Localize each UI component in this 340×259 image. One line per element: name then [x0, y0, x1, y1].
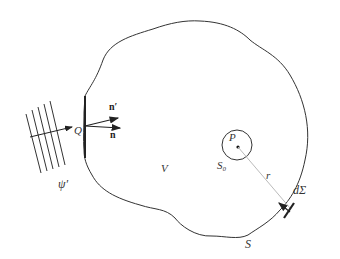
label-v: V [161, 163, 168, 174]
diagram-canvas [0, 0, 340, 259]
label-s0: S₀ [217, 160, 226, 171]
label-psi-prime: ψ′ [58, 178, 68, 190]
label-q: Q [74, 125, 82, 136]
label-d-sigma: dΣ [293, 184, 306, 196]
normal-n-prime-arrow [85, 118, 118, 126]
surface-s-boundary [84, 21, 308, 238]
label-n: n [110, 130, 116, 140]
label-n-prime: n′ [109, 102, 117, 112]
label-s: S [245, 238, 251, 250]
radius-line [238, 147, 290, 208]
label-p: P [229, 132, 236, 143]
normal-n-arrow [85, 126, 120, 128]
label-r: r [266, 170, 270, 181]
small-sphere-s0 [222, 130, 252, 160]
diagram: ψ′ Q n′ n V P S₀ r dΣ S [0, 0, 340, 259]
